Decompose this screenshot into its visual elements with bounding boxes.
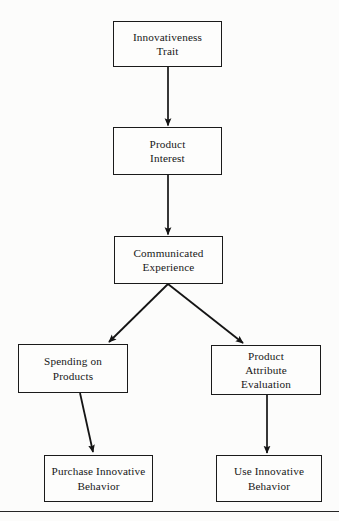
node-label: Purchase Innovative Behavior (49, 464, 149, 493)
edge-experience-to-spending (109, 284, 168, 342)
edge-spending-to-purchase (80, 393, 93, 452)
node-label: Spending on Products (41, 354, 105, 383)
node-label: Product Interest (147, 137, 189, 166)
node-communicated-experience: Communicated Experience (114, 236, 223, 284)
node-spending-on-products: Spending on Products (18, 344, 128, 393)
node-product-attribute-evaluation: Product Attribute Evaluation (211, 345, 321, 395)
node-label: Communicated Experience (130, 246, 206, 275)
edge-experience-to-attribute (168, 284, 243, 343)
footer-divider (0, 511, 339, 512)
node-innovativeness-trait: Innovativeness Trait (113, 21, 222, 67)
flowchart-diagram: Innovativeness Trait Product Interest Co… (0, 0, 339, 521)
node-label: Innovativeness Trait (130, 30, 205, 59)
node-purchase-innovative-behavior: Purchase Innovative Behavior (44, 455, 153, 502)
node-label: Use Innovative Behavior (231, 464, 307, 493)
node-use-innovative-behavior: Use Innovative Behavior (216, 455, 322, 502)
node-product-interest: Product Interest (113, 127, 222, 175)
node-label: Product Attribute Evaluation (238, 349, 294, 392)
